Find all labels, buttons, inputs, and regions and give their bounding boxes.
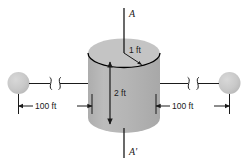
height-dimension-label: 2 ft [114,88,126,98]
left-dimension: 100 ft [19,94,93,114]
left-break-symbol [50,78,61,90]
right-dimension: 100 ft [156,94,230,114]
figure-container: A A' 1 ft 2 ft 100 ft 100 ft [0,0,248,166]
radius-dimension-label: 1 ft [129,45,141,55]
right-sphere [219,72,241,94]
right-break-symbol [188,78,199,90]
axis-label-a: A [128,8,136,19]
left-sphere [8,72,30,94]
axis-label-a-prime: A' [128,146,138,157]
left-dimension-label: 100 ft [35,101,57,111]
right-dimension-label: 100 ft [172,101,194,111]
